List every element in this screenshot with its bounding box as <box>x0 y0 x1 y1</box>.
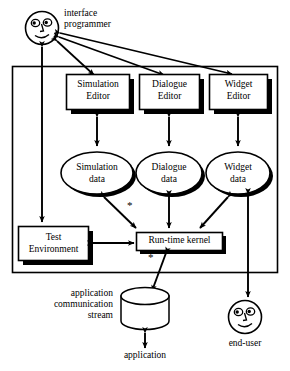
simulation-data-line1: Simulation <box>61 162 133 174</box>
widget-editor-line1: Widget <box>209 79 268 91</box>
dialogue-editor-label[interactable]: Dialogue Editor <box>139 79 200 102</box>
programmer-label-line1: interface <box>64 8 154 19</box>
dialogue-editor-line2: Editor <box>139 91 200 103</box>
stream-line1: application <box>10 288 113 299</box>
simulation-data-line2: data <box>61 174 133 186</box>
stream-line3: stream <box>10 310 113 321</box>
simulation-editor-label[interactable]: Simulation Editor <box>66 79 130 102</box>
dialogue-data-line1: Dialogue <box>136 162 202 174</box>
test-environment-line1: Test <box>18 232 89 244</box>
interface-programmer-icon <box>26 12 59 45</box>
widget-editor-line2: Editor <box>209 91 268 103</box>
simulation-data-label[interactable]: Simulation data <box>61 162 133 185</box>
dialogue-data-line2: data <box>136 174 202 186</box>
application-communication-stream-label: application communication stream <box>10 288 113 321</box>
application-label: application <box>112 350 178 361</box>
test-environment-label[interactable]: Test Environment <box>18 232 89 255</box>
widget-editor-label[interactable]: Widget Editor <box>209 79 268 102</box>
multiplicity-marker-simulation: * <box>127 200 133 211</box>
programmer-label-line2: programmer <box>64 19 154 30</box>
dialogue-editor-line1: Dialogue <box>139 79 200 91</box>
stream-line2: communication <box>10 299 113 310</box>
runtime-kernel-label[interactable]: Run-time kernel <box>136 235 223 245</box>
editor-data-arrows <box>97 117 238 146</box>
test-environment-line2: Environment <box>18 244 89 256</box>
dialogue-data-label[interactable]: Dialogue data <box>136 162 202 185</box>
simulation-editor-line2: Editor <box>66 91 130 103</box>
data-kernel-arrows <box>104 196 228 228</box>
application-communication-stream-cylinder <box>121 288 169 330</box>
end-user-label: end-user <box>215 338 275 349</box>
interface-programmer-label: interface programmer <box>64 8 154 30</box>
widget-data-label[interactable]: Widget data <box>206 162 270 185</box>
diagram-canvas: interface programmer Simulation Editor D… <box>0 0 290 371</box>
multiplicity-marker-kernel: * <box>148 252 154 263</box>
widget-data-line2: data <box>206 174 270 186</box>
end-user-icon <box>229 301 262 334</box>
programmer-to-editors-arrows <box>57 33 232 75</box>
simulation-editor-line1: Simulation <box>66 79 130 91</box>
widget-data-line1: Widget <box>206 162 270 174</box>
